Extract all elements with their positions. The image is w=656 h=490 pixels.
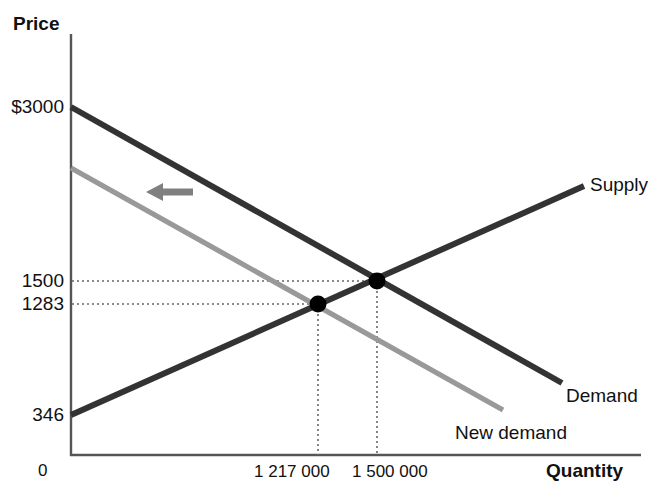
original-equilibrium-marker xyxy=(369,273,386,290)
y-tick-label-1283: 1283 xyxy=(6,294,64,313)
x-tick-label-0: 0 xyxy=(38,462,47,479)
demand-line xyxy=(71,107,562,383)
series-label-supply: Supply xyxy=(590,175,648,194)
x-axis-title: Quantity xyxy=(546,461,623,480)
new-equilibrium-marker xyxy=(310,296,327,313)
x-tick-label-1500000: 1 500 000 xyxy=(352,463,428,480)
series-label-new-demand: New demand xyxy=(455,423,567,442)
new-demand-line xyxy=(71,168,503,410)
y-tick-label-346: 346 xyxy=(6,405,64,424)
y-tick-label-1500: 1500 xyxy=(6,271,64,290)
y-axis-title: Price xyxy=(13,14,59,33)
chart-plot-area xyxy=(0,0,656,490)
supply-line xyxy=(71,186,584,415)
demand-shift-arrow-icon xyxy=(146,183,193,201)
x-tick-label-1217000: 1 217 000 xyxy=(254,463,330,480)
supply-demand-chart: Price $3000 1500 1283 346 0 1 217 000 1 … xyxy=(0,0,656,490)
series-label-demand: Demand xyxy=(566,386,638,405)
y-tick-label-3000: $3000 xyxy=(6,97,64,116)
